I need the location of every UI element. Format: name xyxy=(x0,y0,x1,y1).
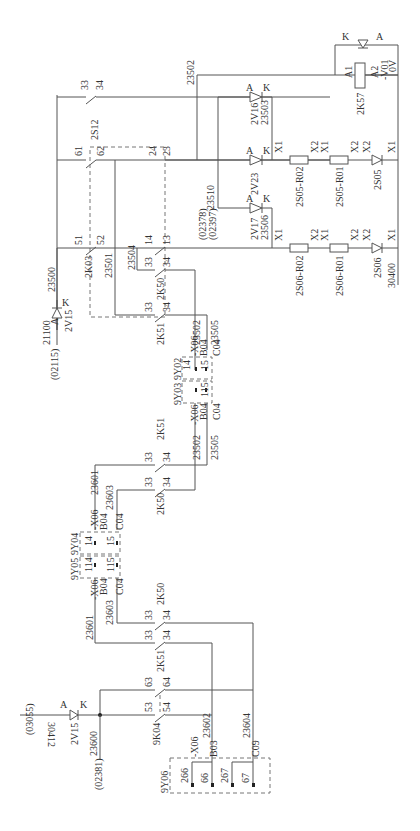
resistor-2s06-r02 xyxy=(290,244,308,252)
diode-v01-icon xyxy=(358,40,368,48)
label: 23600 xyxy=(88,731,99,756)
label: 23504 xyxy=(126,245,137,270)
label: 23603 xyxy=(104,600,115,625)
label: K xyxy=(263,82,271,93)
label: X1 xyxy=(273,141,284,153)
label: 15 xyxy=(105,536,116,546)
label: A xyxy=(246,193,254,204)
label: 15 xyxy=(199,360,210,370)
label: 23506 xyxy=(259,215,270,240)
label: 23501 xyxy=(103,253,114,278)
label: 2K50 xyxy=(155,583,166,605)
label: 61 xyxy=(73,146,84,156)
label: 2V15 xyxy=(69,723,80,745)
pin xyxy=(94,541,96,545)
label: 267 xyxy=(219,768,230,783)
label: X2 xyxy=(349,141,360,153)
label: X2 xyxy=(361,141,372,153)
label: X2 xyxy=(361,229,372,241)
resistor-2s05-r02 xyxy=(290,156,308,164)
label: 33 xyxy=(143,452,154,462)
label: 33 xyxy=(79,80,90,90)
label: 23601 xyxy=(84,615,95,640)
switch-2k51b xyxy=(155,464,165,472)
switch-2s12 xyxy=(86,96,96,104)
label: 51 xyxy=(73,235,84,245)
label: 33 xyxy=(143,477,154,487)
label: 2K51 xyxy=(155,650,166,672)
label: 2S06 xyxy=(372,257,383,278)
pin xyxy=(252,783,255,787)
pin xyxy=(94,563,96,567)
label: 2S05-R02 xyxy=(294,166,305,207)
label: 114 xyxy=(83,557,94,572)
label: 9Y06 xyxy=(159,771,170,793)
label: 23510 xyxy=(205,185,216,210)
label: 21100 xyxy=(41,320,52,345)
label: 23502 xyxy=(191,435,202,460)
label: 34 xyxy=(161,630,172,640)
label: 115 xyxy=(105,557,116,572)
label: X2 xyxy=(349,229,360,241)
led-2s05-icon xyxy=(372,155,382,165)
label: 14 xyxy=(143,235,154,245)
pin xyxy=(211,783,214,787)
label: 2S12 xyxy=(89,119,100,140)
label: K xyxy=(80,699,88,710)
switch-9k04-53-54 xyxy=(155,714,165,722)
label: 33 xyxy=(143,630,154,640)
label: 9Y02 xyxy=(172,358,183,380)
label: C09 xyxy=(250,740,261,757)
label: B03 xyxy=(208,740,219,757)
label: 2V23 xyxy=(249,173,260,195)
label: 53 xyxy=(143,702,154,712)
label: 34 xyxy=(161,302,172,312)
label: 9Y04 xyxy=(69,533,80,555)
diode-2v23-icon xyxy=(250,155,262,165)
label: C04 xyxy=(114,513,125,530)
label: B04 xyxy=(98,513,109,530)
label: (02381) xyxy=(93,758,105,790)
label: A1 xyxy=(343,66,354,78)
label: C04 xyxy=(114,578,125,595)
label: 34 xyxy=(161,610,172,620)
label: 2S06-R02 xyxy=(294,255,305,296)
pin xyxy=(195,367,197,371)
label: 33 xyxy=(143,610,154,620)
switch-2k50 xyxy=(155,269,165,277)
label: 9K04 xyxy=(151,723,162,745)
label: B04 xyxy=(98,578,109,595)
label: 13 xyxy=(161,235,172,245)
label: K xyxy=(342,31,350,42)
label: 2K03 xyxy=(83,256,94,278)
label: (02115) xyxy=(49,349,61,380)
label: 2V15 xyxy=(63,310,74,332)
label: 2S06-R01 xyxy=(334,255,345,296)
label: 63 xyxy=(143,677,154,687)
label: 34 xyxy=(161,452,172,462)
switch-2k51 xyxy=(155,314,165,322)
label: A xyxy=(60,699,68,710)
diode-2v15a-icon xyxy=(70,710,78,720)
label: C04 xyxy=(211,339,222,356)
label: 266 xyxy=(179,768,190,783)
label: 66 xyxy=(199,773,210,783)
label: X1 xyxy=(386,229,397,241)
label: 2K50 xyxy=(155,278,166,300)
label: 52 xyxy=(95,235,106,245)
pin xyxy=(191,783,194,787)
label: 115 xyxy=(199,382,210,397)
mechanical-link xyxy=(90,147,165,317)
label: K xyxy=(263,193,271,204)
label: C04 xyxy=(211,403,222,420)
label: (03055) xyxy=(24,703,36,735)
label: 54 xyxy=(161,702,172,712)
label: 23604 xyxy=(241,713,252,738)
switch-2k50a xyxy=(155,622,165,630)
label: 2S05 xyxy=(372,169,383,190)
label: X1 xyxy=(319,141,330,153)
label: 2S05-R01 xyxy=(334,166,345,207)
label: 33 xyxy=(143,257,154,267)
label: X1 xyxy=(319,229,330,241)
label: K xyxy=(263,145,271,156)
